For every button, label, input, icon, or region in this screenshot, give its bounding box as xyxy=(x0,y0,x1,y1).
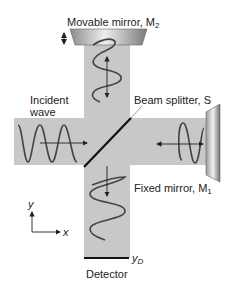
y-axis-label: y xyxy=(28,198,34,210)
incident-wave-label-line1: Incident xyxy=(30,94,69,106)
detector-position-label: yD xyxy=(132,252,143,264)
x-axis-label: x xyxy=(63,226,69,238)
interferometer-diagram: Movable mirror, M2 Incident wave Beam sp… xyxy=(0,0,235,287)
beam-splitter-label: Beam splitter, S xyxy=(134,94,211,106)
diagram-graphics xyxy=(0,0,235,287)
beam-splitter-leader xyxy=(131,106,142,118)
movable-mirror xyxy=(70,29,147,45)
movable-mirror-label: Movable mirror, M2 xyxy=(67,16,159,28)
incident-wave-label-line2: wave xyxy=(30,106,56,118)
horizontal-beam xyxy=(14,118,206,165)
fixed-mirror-label: Fixed mirror, M1 xyxy=(134,182,212,194)
fixed-mirror xyxy=(206,104,220,182)
detector-label: Detector xyxy=(86,268,128,280)
